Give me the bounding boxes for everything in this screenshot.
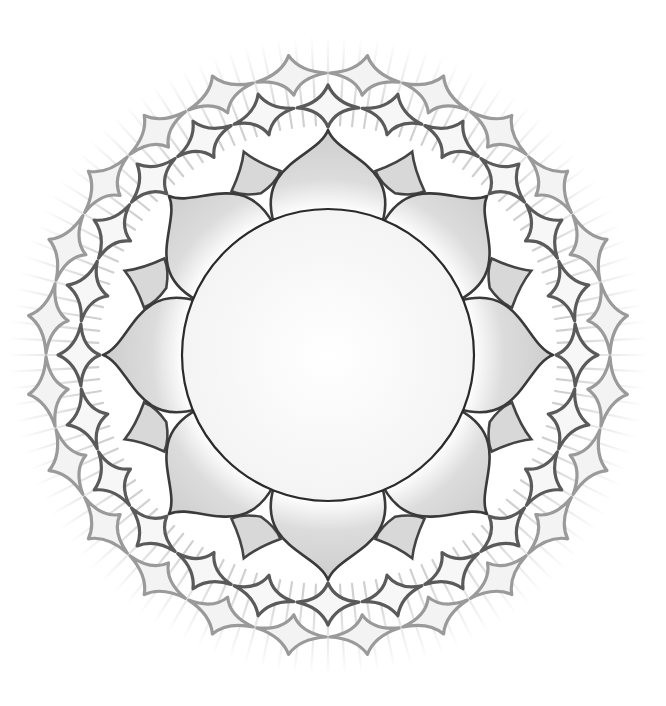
lotus-mandala-graphic [0,0,666,706]
center-circle [182,209,474,501]
mandala-illustration [0,0,666,706]
